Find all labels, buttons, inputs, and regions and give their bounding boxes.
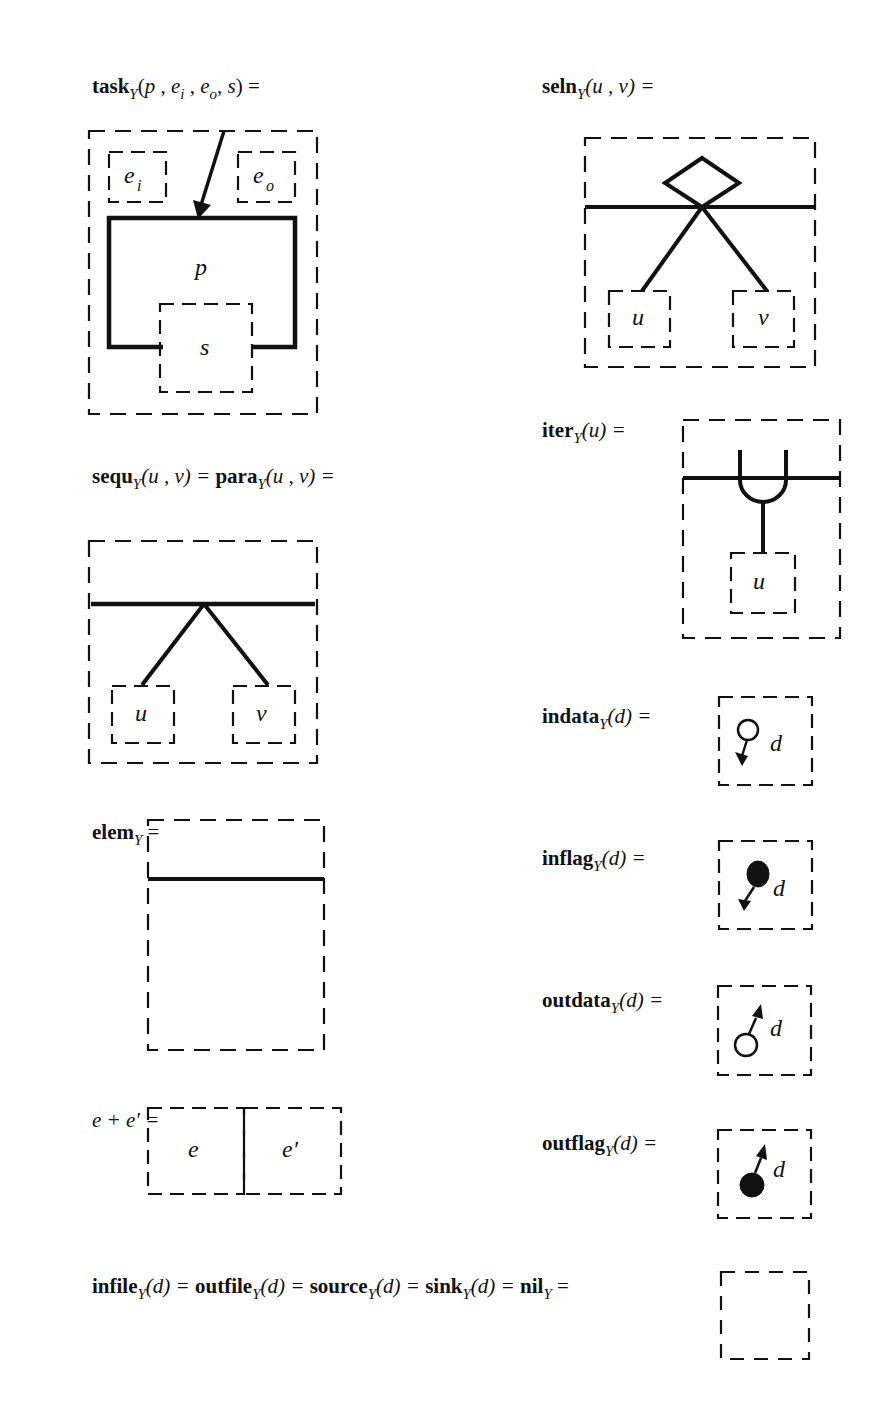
box-label-e-prime: e′ (282, 1136, 299, 1162)
box-label-v: v (758, 304, 769, 330)
indata-diagram (719, 697, 812, 785)
svg-text:o: o (266, 177, 274, 194)
arrow-up-icon (756, 1144, 767, 1160)
box-label-u: u (632, 304, 644, 330)
box-label-e-i: e (124, 162, 135, 188)
box-label-s: s (200, 334, 209, 360)
diamond-icon (665, 158, 739, 207)
outflag-diagram (718, 1130, 811, 1218)
box-label-u: u (135, 700, 147, 726)
box-label-e: e (188, 1136, 199, 1162)
box-label-d: d (770, 1015, 783, 1041)
box-label-p: p (193, 254, 207, 280)
filled-circle-icon (747, 861, 769, 887)
box-label-d: d (773, 1156, 786, 1182)
hollow-circle-icon (738, 720, 758, 740)
sequ-para-diagram (89, 541, 317, 763)
elem-diagram (148, 820, 324, 1050)
outdata-diagram (718, 986, 811, 1075)
box-label-u: u (753, 568, 765, 594)
inflag-diagram (719, 841, 812, 929)
svg-text:i: i (137, 177, 141, 194)
arrow-up-icon (752, 1004, 763, 1019)
box-label-e-o: e (253, 162, 264, 188)
arrow-down-icon (738, 899, 751, 911)
box-label-v: v (256, 700, 267, 726)
box-label-d: d (773, 875, 786, 901)
seln-diagram (585, 138, 815, 367)
nil-diagram (721, 1272, 809, 1359)
diagram-canvas: e i e o p s u v u u v d d d d e e′ (0, 0, 870, 1404)
concat-diagram (148, 1108, 341, 1194)
arrow-down-icon (735, 752, 748, 766)
hollow-circle-icon (735, 1034, 757, 1056)
filled-circle-icon (740, 1173, 764, 1197)
iter-diagram (683, 420, 840, 638)
incoming-arrow-icon (201, 131, 224, 205)
process-frame-p (109, 218, 295, 347)
box-label-d: d (770, 730, 783, 756)
